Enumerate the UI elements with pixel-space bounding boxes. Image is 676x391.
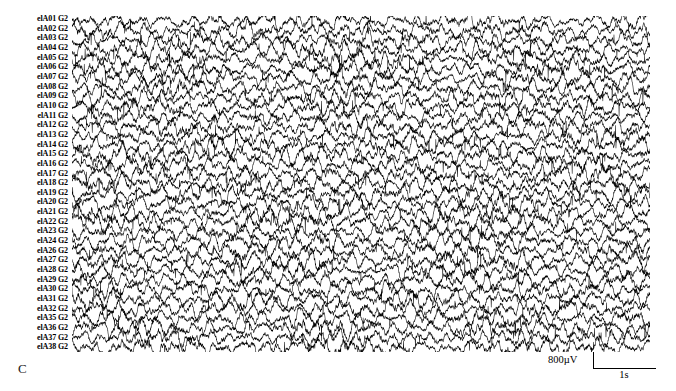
channel-label: elA30 G2 bbox=[0, 284, 70, 294]
channel-label: elA28 G2 bbox=[0, 265, 70, 275]
channel-label: elA23 G2 bbox=[0, 226, 70, 236]
channel-label: elA24 G2 bbox=[0, 236, 70, 246]
channel-label: elA14 G2 bbox=[0, 140, 70, 150]
channel-label: elA18 G2 bbox=[0, 178, 70, 188]
channel-label: elA20 G2 bbox=[0, 197, 70, 207]
channel-label: elA01 G2 bbox=[0, 14, 70, 24]
panel-letter: C bbox=[18, 361, 27, 377]
channel-label: elA02 G2 bbox=[0, 24, 70, 34]
channel-label: elA06 G2 bbox=[0, 62, 70, 72]
eeg-trace-area bbox=[72, 16, 650, 352]
channel-label: elA12 G2 bbox=[0, 120, 70, 130]
channel-label: elA21 G2 bbox=[0, 207, 70, 217]
eeg-figure-panel: elA01 G2elA02 G2elA03 G2elA04 G2elA05 G2… bbox=[0, 0, 676, 391]
scale-time-label: 1s bbox=[593, 369, 655, 380]
channel-label: elA17 G2 bbox=[0, 169, 70, 179]
scale-bar-lshape bbox=[593, 352, 656, 369]
channel-label: elA15 G2 bbox=[0, 149, 70, 159]
channel-label: elA35 G2 bbox=[0, 313, 70, 323]
channel-label: elA22 G2 bbox=[0, 217, 70, 227]
channel-label: elA38 G2 bbox=[0, 342, 70, 352]
channel-label: elA13 G2 bbox=[0, 130, 70, 140]
channel-label: elA36 G2 bbox=[0, 323, 70, 333]
scale-voltage-label: 800µV bbox=[548, 354, 577, 365]
eeg-trace-canvas bbox=[72, 16, 650, 352]
channel-label: elA29 G2 bbox=[0, 275, 70, 285]
channel-label: elA04 G2 bbox=[0, 43, 70, 53]
channel-label: elA07 G2 bbox=[0, 72, 70, 82]
channel-label: elA26 G2 bbox=[0, 246, 70, 256]
channel-label: elA09 G2 bbox=[0, 91, 70, 101]
channel-label: elA37 G2 bbox=[0, 333, 70, 343]
channel-label: elA27 G2 bbox=[0, 255, 70, 265]
calibration-scale-bar: 800µV 1s bbox=[548, 352, 668, 382]
channel-label: elA16 G2 bbox=[0, 159, 70, 169]
channel-label: elA31 G2 bbox=[0, 294, 70, 304]
channel-label: elA10 G2 bbox=[0, 101, 70, 111]
channel-label: elA05 G2 bbox=[0, 53, 70, 63]
channel-label: elA11 G2 bbox=[0, 111, 70, 121]
channel-label-column: elA01 G2elA02 G2elA03 G2elA04 G2elA05 G2… bbox=[0, 14, 70, 352]
channel-label: elA08 G2 bbox=[0, 82, 70, 92]
channel-label: elA19 G2 bbox=[0, 188, 70, 198]
channel-label: elA03 G2 bbox=[0, 33, 70, 43]
channel-label: elA32 G2 bbox=[0, 304, 70, 314]
